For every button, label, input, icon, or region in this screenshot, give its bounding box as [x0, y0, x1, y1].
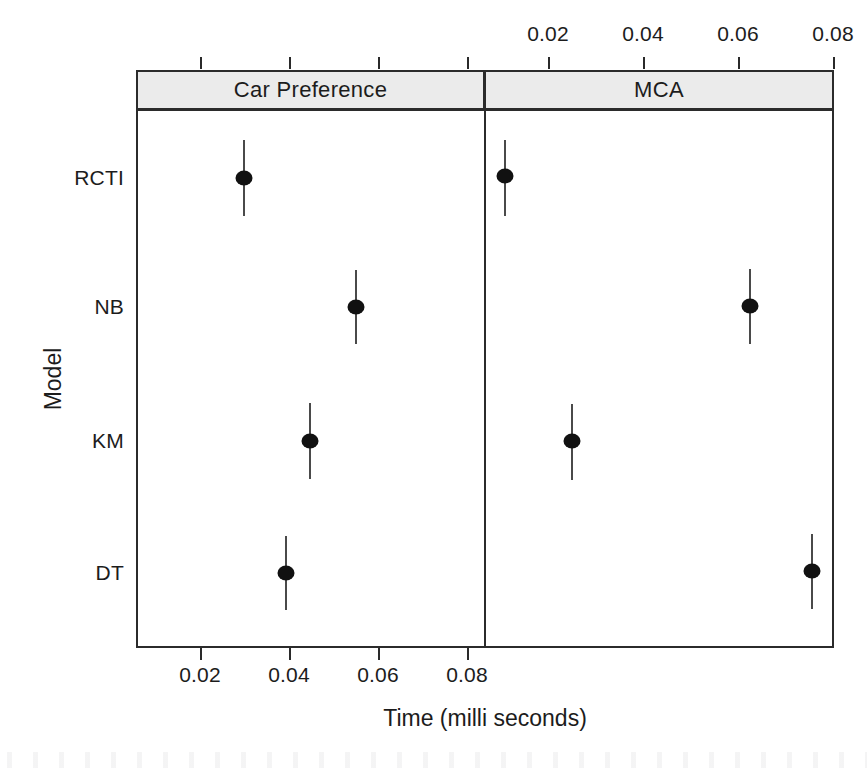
- strip-mca: MCA: [484, 70, 834, 110]
- bottom-tick-label-4: 0.08: [446, 663, 488, 687]
- top-tick-mark-3: [738, 57, 740, 69]
- point-car-preference-rcti: [236, 171, 253, 186]
- y-tick-label-dt: DT: [96, 561, 124, 585]
- point-car-preference-nb: [348, 300, 365, 315]
- bottom-tick-mark-3: [378, 648, 380, 660]
- y-axis-title: Model: [40, 348, 67, 411]
- strip-car-preference: Car Preference: [136, 70, 485, 110]
- panel-divider: [484, 109, 486, 648]
- top-tick-label-2: 0.04: [622, 22, 664, 46]
- bottom-tick-label-1: 0.02: [179, 663, 221, 687]
- point-car-preference-dt: [278, 566, 295, 581]
- top-tick-mark-d: [467, 57, 469, 69]
- top-tick-mark-a: [200, 57, 202, 69]
- top-tick-label-1: 0.02: [527, 22, 569, 46]
- point-mca-rcti: [497, 169, 514, 184]
- point-mca-km: [564, 434, 581, 449]
- point-mca-nb: [742, 299, 759, 314]
- scan-artifact: [0, 752, 867, 768]
- y-tick-label-rcti: RCTI: [74, 166, 124, 190]
- top-tick-mark-4: [833, 57, 835, 69]
- strip-label-mca: MCA: [634, 79, 684, 101]
- bottom-tick-label-3: 0.06: [357, 663, 399, 687]
- chart-figure: 0.02 0.04 0.06 0.08 Car Preference MCA R…: [0, 0, 867, 769]
- y-tick-label-nb: NB: [94, 295, 124, 319]
- top-tick-label-4: 0.08: [812, 22, 854, 46]
- bottom-tick-mark-2: [289, 648, 291, 660]
- top-tick-label-3: 0.06: [717, 22, 759, 46]
- x-axis-title: Time (milli seconds): [383, 705, 587, 732]
- y-tick-label-km: KM: [92, 429, 124, 453]
- top-tick-mark-1: [548, 57, 550, 69]
- bottom-tick-mark-4: [467, 648, 469, 660]
- strip-label-car-preference: Car Preference: [234, 79, 387, 101]
- point-mca-dt: [804, 564, 821, 579]
- top-tick-mark-b: [289, 57, 291, 69]
- top-tick-mark-2: [643, 57, 645, 69]
- bottom-tick-label-2: 0.04: [268, 663, 310, 687]
- point-car-preference-km: [302, 434, 319, 449]
- top-tick-mark-c: [378, 57, 380, 69]
- bottom-tick-mark-1: [200, 648, 202, 660]
